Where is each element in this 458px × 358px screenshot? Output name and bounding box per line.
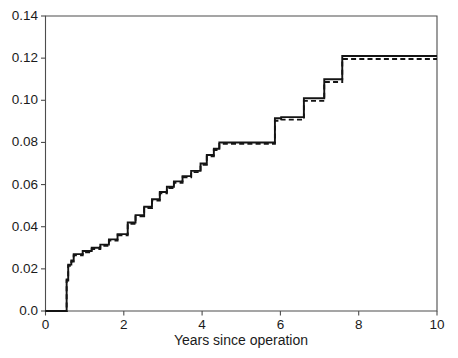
y-tick-label-3: 0.06 bbox=[12, 177, 38, 192]
x-tick-label-0: 0 bbox=[42, 317, 50, 332]
plot-frame bbox=[46, 16, 438, 311]
series-solid-curve bbox=[46, 56, 438, 311]
y-tick-label-1: 0.02 bbox=[12, 261, 38, 276]
y-tick-label-7: 0.14 bbox=[12, 8, 39, 23]
series-dashed-curve bbox=[46, 59, 438, 311]
cumulative-incidence-chart: 0.00.020.040.060.080.100.120.14 0246810 … bbox=[0, 0, 458, 358]
x-tick-label-5: 10 bbox=[429, 317, 444, 332]
y-tick-label-4: 0.08 bbox=[12, 134, 38, 149]
x-tick-label-4: 8 bbox=[355, 317, 363, 332]
x-axis-title: Years since operation bbox=[174, 332, 308, 348]
y-axis-tick-labels: 0.00.020.040.060.080.100.120.14 bbox=[12, 8, 39, 318]
y-tick-label-0: 0.0 bbox=[19, 303, 38, 318]
chart-series-group bbox=[46, 56, 438, 311]
x-tick-label-1: 2 bbox=[120, 317, 128, 332]
x-tick-label-3: 6 bbox=[277, 317, 285, 332]
x-axis-ticks bbox=[46, 311, 438, 316]
y-axis-ticks bbox=[41, 16, 46, 311]
chart-figure: 0.00.020.040.060.080.100.120.14 0246810 … bbox=[0, 0, 458, 358]
axes-frame bbox=[46, 16, 438, 311]
x-tick-label-2: 4 bbox=[198, 317, 206, 332]
y-tick-label-2: 0.04 bbox=[12, 219, 39, 234]
y-tick-label-6: 0.12 bbox=[12, 50, 38, 65]
x-axis-tick-labels: 0246810 bbox=[42, 317, 445, 332]
y-tick-label-5: 0.10 bbox=[12, 92, 38, 107]
